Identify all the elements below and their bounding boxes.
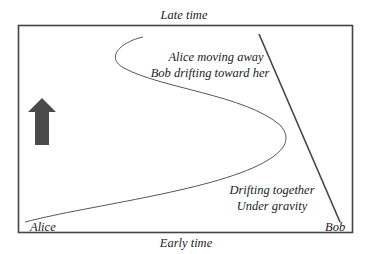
up-arrow-icon <box>28 98 56 145</box>
lower-annotation-line1: Drifting together <box>228 183 314 197</box>
bob-label: Bob <box>325 220 345 234</box>
alice-label: Alice <box>29 220 56 234</box>
bottom-label: Early time <box>159 236 213 250</box>
top-label: Late time <box>160 8 208 22</box>
upper-annotation-line2: Bob drifting toward her <box>151 66 270 80</box>
lower-annotation-line2: Under gravity <box>237 199 308 213</box>
spacetime-diagram: Late time Alice moving away Bob drifting… <box>0 0 369 254</box>
upper-annotation-line1: Alice moving away <box>167 50 264 64</box>
